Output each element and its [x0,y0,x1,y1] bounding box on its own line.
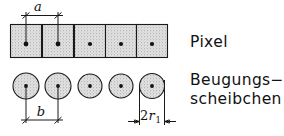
side-labels: Pixel Beugungs− scheibchen [190,33,284,108]
dimension-2r1-label-subscript: 1 [156,115,161,125]
dimension-a-label: a [34,0,42,14]
dimension-b: b [21,104,63,124]
label-pixel: Pixel [190,33,228,51]
dimension-b-label: b [37,104,45,119]
airy-disk-center-dot [119,84,123,88]
pixel-row: a [11,0,168,58]
label-beugungs-line2: scheibchen [190,90,282,108]
dimension-a: a [21,0,63,19]
pixel-square [75,25,106,58]
pixel-center-dot [119,42,123,46]
airy-disk-center-dot [150,84,154,88]
airy-disk-center-dot [88,84,92,88]
pixel-center-dot [150,42,154,46]
airy-disk-row: b 2 r 1 [13,73,176,125]
dimension-2r1-label-2: 2 [140,108,148,123]
dimension-2r1-label-r: r [149,108,156,123]
figure-root: a b [0,0,284,136]
dimension-2r1: 2 r 1 [128,108,176,125]
diagram-canvas: a b [0,0,284,136]
pixel-square [137,25,168,58]
label-beugungs-line1: Beugungs− [190,71,284,89]
pixel-square [106,25,137,58]
pixel-center-dot [88,42,92,46]
